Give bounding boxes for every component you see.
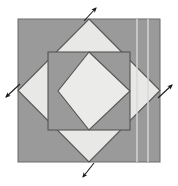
figure-root <box>0 0 178 186</box>
fold-diagram-svg <box>0 0 178 186</box>
